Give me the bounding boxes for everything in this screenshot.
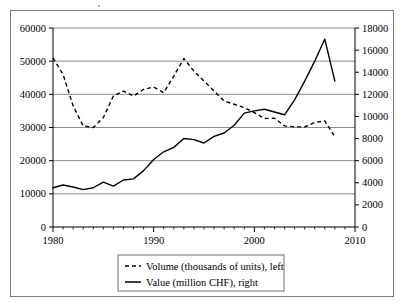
left-tick-label: 30000 (20, 122, 46, 133)
right-tick-label: 6000 (362, 155, 383, 166)
legend-label-volume: Volume (thousands of units), left (146, 261, 284, 273)
dual-axis-line-chart: 0100002000030000400005000060000 02000400… (0, 0, 404, 307)
right-axis-ticks: 0200040006000800010000120001400016000180… (355, 23, 388, 233)
x-tick-label: 2000 (244, 235, 265, 246)
left-tick-label: 20000 (20, 155, 46, 166)
right-tick-label: 16000 (362, 45, 388, 56)
right-tick-label: 14000 (362, 67, 388, 78)
x-tick-label: 2010 (345, 235, 366, 246)
left-tick-label: 40000 (20, 89, 46, 100)
x-axis-ticks: 1980199020002010 (43, 227, 366, 246)
left-tick-label: 10000 (20, 188, 46, 199)
left-axis-ticks: 0100002000030000400005000060000 (20, 23, 53, 233)
right-tick-label: 10000 (362, 111, 388, 122)
right-tick-label: 18000 (362, 23, 388, 34)
x-tick-label: 1990 (143, 235, 164, 246)
left-tick-label: 50000 (20, 56, 46, 67)
legend-label-value: Value (million CHF), right (146, 277, 258, 289)
right-tick-label: 0 (362, 222, 367, 233)
left-tick-label: 0 (41, 222, 46, 233)
right-tick-label: 4000 (362, 177, 383, 188)
right-tick-label: 12000 (362, 89, 388, 100)
gridlines (53, 28, 355, 194)
x-tick-label: 1980 (43, 235, 64, 246)
right-tick-label: 8000 (362, 133, 383, 144)
series-line-volume (53, 58, 335, 137)
speck-artifact (98, 5, 100, 7)
left-tick-label: 60000 (20, 23, 46, 34)
chart-figure: 0100002000030000400005000060000 02000400… (0, 0, 404, 307)
right-tick-label: 2000 (362, 199, 383, 210)
chart-legend: Volume (thousands of units), left Value … (118, 255, 284, 291)
